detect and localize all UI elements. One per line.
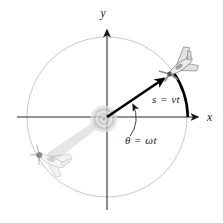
y-axis-label: y <box>99 7 106 20</box>
x-axis-label: x <box>206 111 213 123</box>
angle-arc-arrow <box>130 105 136 137</box>
ghost-engine-icon <box>36 152 42 158</box>
circular-motion-figure: y x s = vt θ = ωt <box>0 0 223 223</box>
angle-label: θ = ωt <box>125 134 158 146</box>
arc-length-label: s = vt <box>152 93 181 105</box>
hub-center <box>102 117 105 120</box>
figure-canvas: y x s = vt θ = ωt <box>0 0 223 223</box>
pivot-hub-icon <box>91 106 118 133</box>
